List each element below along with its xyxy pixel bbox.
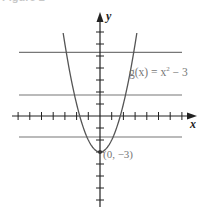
parabola-plot: x y g(x) = x2 − 3 (0, −3): [0, 0, 206, 218]
labels: x y g(x) = x2 − 3 (0, −3): [103, 9, 196, 161]
function-label-suffix: − 3: [170, 66, 188, 78]
function-label: g(x) = x2 − 3: [129, 65, 188, 79]
figure-caption: Figure 2: [2, 0, 45, 3]
function-label-prefix: g(x) = x: [129, 66, 166, 79]
figure: Figure 2 x y g(x) = x2 − 3 (0, −3): [0, 0, 206, 218]
axes: [12, 12, 197, 207]
vertex-point: [98, 150, 102, 154]
y-axis-label: y: [104, 9, 112, 23]
x-axis-label: x: [189, 117, 196, 131]
y-axis-arrow-icon: [97, 12, 104, 22]
vertex-label: (0, −3): [103, 148, 133, 161]
